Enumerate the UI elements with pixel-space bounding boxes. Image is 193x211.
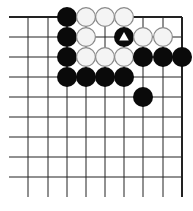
black-stone xyxy=(133,47,153,67)
black-stone xyxy=(133,87,153,107)
black-stone-icon xyxy=(133,87,153,107)
white-stone xyxy=(154,28,173,47)
white-stone xyxy=(134,28,153,47)
white-stone-icon xyxy=(96,48,115,67)
white-stone-icon xyxy=(115,8,134,27)
white-stone xyxy=(115,8,134,27)
white-stone-icon xyxy=(77,48,96,67)
white-stone xyxy=(77,28,96,47)
white-stone-icon xyxy=(77,28,96,47)
go-board-diagram xyxy=(0,0,193,211)
white-stone xyxy=(77,8,96,27)
white-stone-icon xyxy=(77,8,96,27)
black-stone-icon xyxy=(172,47,192,67)
black-stone-icon xyxy=(153,47,173,67)
black-stone xyxy=(153,47,173,67)
black-stone xyxy=(172,47,192,67)
black-stone-icon xyxy=(57,67,77,87)
black-stone xyxy=(95,67,115,87)
black-stone xyxy=(114,67,134,87)
white-stone-icon xyxy=(154,28,173,47)
black-stone-icon xyxy=(57,47,77,67)
white-stone xyxy=(96,48,115,67)
black-stone-icon xyxy=(95,67,115,87)
black-stone xyxy=(57,27,77,47)
black-stone-icon xyxy=(76,67,96,87)
white-stone-icon xyxy=(115,48,134,67)
white-stone xyxy=(77,48,96,67)
black-stone xyxy=(57,47,77,67)
black-stone xyxy=(57,67,77,87)
white-stone xyxy=(115,48,134,67)
black-stone xyxy=(76,67,96,87)
black-stone xyxy=(114,27,134,47)
white-stone-icon xyxy=(134,28,153,47)
white-stone-icon xyxy=(96,8,115,27)
white-stone xyxy=(96,8,115,27)
black-stone-icon xyxy=(114,67,134,87)
black-stone-icon xyxy=(133,47,153,67)
black-stone xyxy=(57,7,77,27)
black-stone-icon xyxy=(57,27,77,47)
black-stone-icon xyxy=(57,7,77,27)
